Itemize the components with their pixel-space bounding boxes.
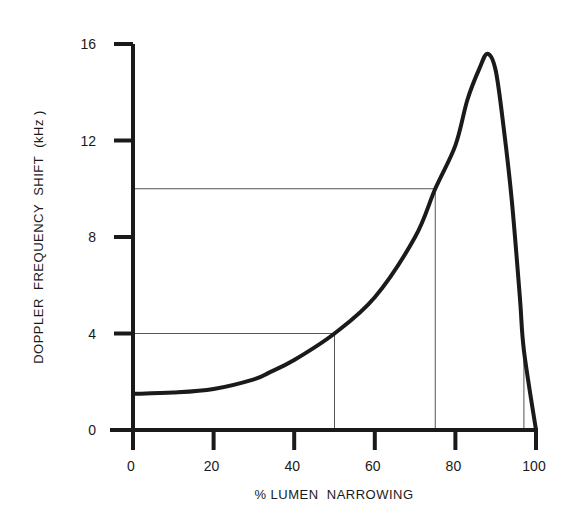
y-axis-title: DOPPLER FREQUENCY SHIFT (kHz ) bbox=[31, 110, 46, 364]
y-tick-label: 16 bbox=[80, 36, 96, 52]
x-tick-label: 80 bbox=[446, 458, 462, 474]
y-tick-label: 4 bbox=[88, 326, 96, 342]
x-tick-label: 0 bbox=[127, 458, 135, 474]
y-tick-label: 8 bbox=[88, 229, 96, 245]
y-axis-tick-labels: 0481216 bbox=[80, 36, 96, 438]
y-tick-label: 12 bbox=[80, 133, 96, 149]
axes bbox=[110, 44, 538, 450]
y-tick-label: 0 bbox=[88, 422, 96, 438]
x-tick-label: 40 bbox=[284, 458, 300, 474]
x-tick-label: 20 bbox=[204, 458, 220, 474]
reference-guide-lines bbox=[133, 189, 524, 430]
x-axis-tick-labels: 020406080100 bbox=[127, 458, 546, 474]
x-tick-label: 60 bbox=[365, 458, 381, 474]
doppler-chart: 020406080100 0481216 % LUMEN NARROWING D… bbox=[0, 0, 568, 527]
x-tick-label: 100 bbox=[522, 458, 546, 474]
x-axis-title: % LUMEN NARROWING bbox=[254, 487, 413, 502]
